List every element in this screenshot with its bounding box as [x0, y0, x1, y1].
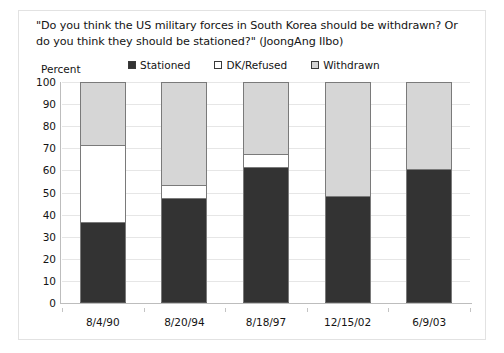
y-tick-label: 100 [36, 76, 56, 88]
bar-stack [161, 82, 207, 303]
chart-legend: Stationed DK/Refused Withdrawn [128, 59, 380, 71]
bar-segment-dk-refused [243, 155, 289, 168]
y-tick-label: 90 [43, 98, 56, 110]
x-tick-label: 6/9/03 [412, 316, 446, 328]
legend-swatch-withdrawn-icon [311, 61, 319, 69]
bar-stack [325, 82, 371, 303]
x-tick-mark [388, 308, 389, 312]
y-tick-label: 70 [43, 142, 56, 154]
y-tick-label: 40 [43, 209, 56, 221]
plot-area [62, 82, 470, 303]
y-tick-label: 60 [43, 164, 56, 176]
legend-item-dk-refused: DK/Refused [214, 59, 287, 71]
legend-swatch-stationed-icon [128, 61, 136, 69]
legend-item-withdrawn: Withdrawn [311, 59, 380, 71]
y-axis-line [60, 82, 61, 304]
chart-page: "Do you think the US military forces in … [0, 0, 504, 353]
x-tick-label: 8/18/97 [246, 316, 286, 328]
x-axis-line [60, 303, 472, 304]
bar-stack [406, 82, 452, 303]
bar-segment-withdrawn [80, 82, 126, 146]
y-tick-label: 0 [49, 297, 56, 309]
x-tick-mark [225, 308, 226, 312]
bar-segment-stationed [325, 197, 371, 303]
chart-title: "Do you think the US military forces in … [36, 18, 474, 50]
bar-segment-withdrawn [406, 82, 452, 170]
y-tick-label: 80 [43, 120, 56, 132]
legend-swatch-dk-refused-icon [214, 61, 222, 69]
bar-segment-stationed [406, 170, 452, 303]
bar-stack [243, 82, 289, 303]
bar-segment-dk-refused [80, 146, 126, 223]
y-axis-title: Percent [41, 63, 81, 75]
x-tick-mark [62, 308, 63, 312]
y-tick-label: 10 [43, 275, 56, 287]
bar-segment-stationed [80, 223, 126, 303]
legend-item-stationed: Stationed [128, 59, 190, 71]
y-tick-label: 20 [43, 253, 56, 265]
bar-segment-stationed [243, 168, 289, 303]
y-tick-label: 30 [43, 231, 56, 243]
bar-segment-withdrawn [161, 82, 207, 186]
x-tick-label: 8/4/90 [86, 316, 120, 328]
y-axis-tick-labels: 0102030405060708090100 [26, 82, 60, 303]
bar-stack [80, 82, 126, 303]
legend-label-stationed: Stationed [140, 59, 190, 71]
x-axis-tick-labels: 8/4/908/20/948/18/9712/15/026/9/03 [62, 308, 470, 328]
legend-label-dk-refused: DK/Refused [226, 59, 287, 71]
y-tick-label: 50 [43, 187, 56, 199]
x-tick-mark [470, 308, 471, 312]
x-tick-mark [307, 308, 308, 312]
bar-segment-withdrawn [325, 82, 371, 197]
bar-segment-stationed [161, 199, 207, 303]
bar-segment-dk-refused [161, 186, 207, 199]
x-tick-label: 8/20/94 [164, 316, 204, 328]
x-tick-mark [144, 308, 145, 312]
x-tick-label: 12/15/02 [324, 316, 371, 328]
legend-label-withdrawn: Withdrawn [323, 59, 380, 71]
bar-segment-withdrawn [243, 82, 289, 155]
